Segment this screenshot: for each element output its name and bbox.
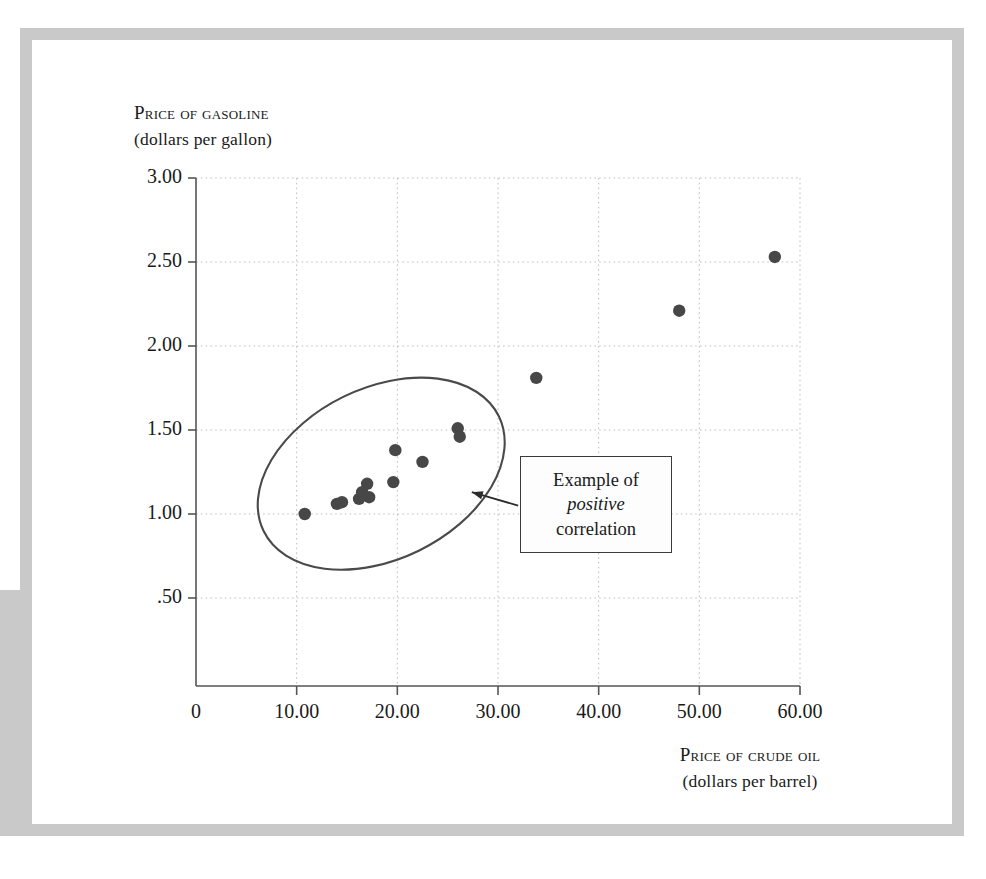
data-point <box>336 496 348 508</box>
x-axis-tick-label: 60.00 <box>760 700 840 723</box>
correlation-ellipse-outline <box>226 339 536 608</box>
x-axis-tick-label: 0 <box>156 700 236 723</box>
gridlines <box>196 178 800 686</box>
x-axis-tick-label: 20.00 <box>357 700 437 723</box>
data-point <box>769 251 781 263</box>
data-point <box>416 456 428 468</box>
correlation-ellipse <box>226 339 536 608</box>
callout-arrow-head <box>472 491 484 499</box>
x-axis-tick-label: 30.00 <box>458 700 538 723</box>
y-axis-tick-label: 1.00 <box>120 501 182 524</box>
data-point <box>363 491 375 503</box>
y-axis-tick-label: 1.50 <box>120 417 182 440</box>
y-axis-tick-label: 2.00 <box>120 333 182 356</box>
data-point <box>530 372 542 384</box>
annotation-line-2: positive <box>567 492 625 516</box>
axis-lines <box>196 178 800 686</box>
x-axis-tick-label: 50.00 <box>659 700 739 723</box>
annotation-line-1: Example of <box>553 468 639 492</box>
y-axis-tick-label: .50 <box>120 585 182 608</box>
annotation-line-3: correlation <box>556 517 636 541</box>
data-point <box>299 508 311 520</box>
axis-tick-marks <box>188 178 800 695</box>
data-point <box>361 478 373 490</box>
x-axis-tick-label: 10.00 <box>257 700 337 723</box>
data-point <box>389 444 401 456</box>
data-point <box>454 431 466 443</box>
y-axis-tick-label: 3.00 <box>120 165 182 188</box>
annotation-callout-box: Example of positive correlation <box>520 456 672 553</box>
data-point <box>387 476 399 488</box>
data-point <box>673 305 685 317</box>
x-axis-tick-label: 40.00 <box>559 700 639 723</box>
y-axis-tick-label: 2.50 <box>120 249 182 272</box>
scatter-chart-figure: Price of gasoline (dollars per gallon) P… <box>0 0 986 879</box>
